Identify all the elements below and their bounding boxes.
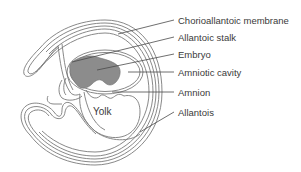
yolk-label: Yolk: [93, 106, 112, 117]
label-amnion: Amnion: [178, 87, 210, 98]
label-amniotic-cavity: Amniotic cavity: [178, 67, 241, 78]
chorioallantoic-membrane-rings: [30, 20, 162, 165]
label-embryo: Embryo: [178, 49, 211, 60]
label-allantoic-stalk: Allantoic stalk: [178, 32, 236, 43]
leader-chorioallantoic-membrane: [118, 20, 174, 34]
label-allantois: Allantois: [178, 107, 214, 118]
label-chorioallantoic-membrane: Chorioallantoic membrane: [178, 15, 289, 26]
leader-allantoic-stalk: [72, 37, 174, 62]
diagram-stage: Yolk Chorioallantoic membrane Allantoic …: [0, 0, 301, 172]
